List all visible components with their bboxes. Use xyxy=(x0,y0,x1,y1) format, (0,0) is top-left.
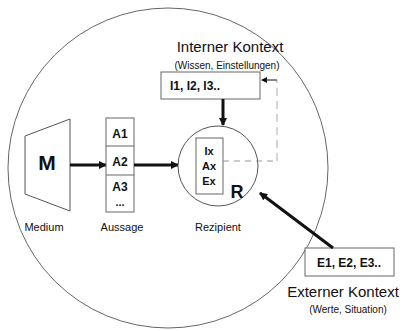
aussage-item-1: A1 xyxy=(112,127,128,141)
externer-kontext: E1, E2, E3.. Externer Kontext (Werte, Si… xyxy=(287,248,400,315)
communication-model-diagram: M Medium A1 A2 A3 ... Aussage Ix Ax Ex R… xyxy=(0,0,409,331)
rezipient-item-ix: Ix xyxy=(204,145,214,157)
aussage-node: A1 A2 A3 ... Aussage xyxy=(101,118,144,233)
interner-kontext: Interner Kontext (Wissen, Einstellungen)… xyxy=(161,38,284,99)
rezipient-item-ax: Ax xyxy=(202,160,217,172)
externer-kontext-subtitle: (Werte, Situation) xyxy=(309,304,387,315)
aussage-label: Aussage xyxy=(101,221,144,233)
aussage-item-2: A2 xyxy=(112,155,128,169)
rezipient-label: Rezipient xyxy=(195,221,241,233)
interner-kontext-values: I1, I2, I3.. xyxy=(170,79,220,93)
medium-label: Medium xyxy=(24,221,63,233)
aussage-item-more: ... xyxy=(115,196,124,208)
medium-symbol: M xyxy=(38,151,56,174)
externer-kontext-title: Externer Kontext xyxy=(287,283,400,300)
arrow-externer-to-rezipient xyxy=(260,193,333,248)
medium-node: M Medium xyxy=(24,119,70,233)
aussage-item-3: A3 xyxy=(112,180,128,194)
externer-kontext-values: E1, E2, E3.. xyxy=(317,256,381,270)
interner-kontext-subtitle: (Wissen, Einstellungen) xyxy=(174,60,279,71)
interner-kontext-title: Interner Kontext xyxy=(177,38,285,55)
rezipient-node: Ix Ax Ex R Rezipient xyxy=(178,126,258,233)
rezipient-item-ex: Ex xyxy=(202,175,216,187)
rezipient-symbol: R xyxy=(231,182,244,202)
